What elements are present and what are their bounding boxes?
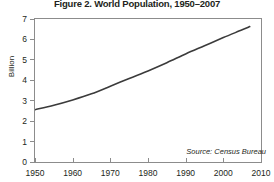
plot-inner bbox=[35, 19, 261, 162]
x-axis-tick-mark bbox=[73, 158, 74, 162]
y-axis-tick: 7 bbox=[0, 14, 34, 24]
x-axis-tick: 1970 bbox=[90, 163, 130, 178]
y-axis-tick-label: 4 bbox=[22, 75, 27, 85]
x-axis-tick-mark bbox=[35, 158, 36, 162]
x-axis-tick-label: 1960 bbox=[53, 163, 93, 178]
x-axis-tick-mark bbox=[148, 158, 149, 162]
x-axis-tick: 1980 bbox=[128, 163, 168, 178]
x-axis-tick-label: 2000 bbox=[203, 163, 243, 178]
y-axis-tick: 4 bbox=[0, 75, 34, 85]
y-axis-tick: 6 bbox=[0, 34, 34, 44]
y-axis-tick-label: 7 bbox=[22, 14, 27, 24]
source-note: Source: Census Bureau bbox=[186, 147, 266, 156]
y-axis-tick-label: 3 bbox=[22, 96, 27, 106]
chart-title: Figure 2. World Population, 1950–2007 bbox=[0, 0, 274, 10]
plot-area bbox=[34, 18, 262, 163]
x-axis-tick-label: 1990 bbox=[166, 163, 206, 178]
x-axis-tick-label: 1980 bbox=[128, 163, 168, 178]
x-axis-tick: 2010 bbox=[241, 163, 274, 178]
y-axis-tick: 2 bbox=[0, 116, 34, 126]
y-axis-tick-label: 6 bbox=[22, 34, 27, 44]
y-axis-tick: 3 bbox=[0, 96, 34, 106]
figure-container: Figure 2. World Population, 1950–2007 Bi… bbox=[0, 0, 274, 182]
population-line-series bbox=[35, 19, 261, 162]
y-axis-label: Billion bbox=[7, 37, 16, 97]
y-axis-tick: 5 bbox=[0, 55, 34, 65]
y-axis-tick-label: 2 bbox=[22, 116, 27, 126]
y-axis-tick-label: 1 bbox=[22, 137, 27, 147]
x-axis-tick-label: 2010 bbox=[241, 163, 274, 178]
x-axis-tick-mark bbox=[223, 158, 224, 162]
x-axis-tick-mark bbox=[261, 158, 262, 162]
x-axis-tick-label: 1950 bbox=[15, 163, 55, 178]
x-axis-tick-mark bbox=[186, 158, 187, 162]
population-line-path bbox=[35, 27, 250, 110]
x-axis-tick: 1990 bbox=[166, 163, 206, 178]
x-axis-tick: 1950 bbox=[15, 163, 55, 178]
x-axis-tick: 1960 bbox=[53, 163, 93, 178]
x-axis-tick-label: 1970 bbox=[90, 163, 130, 178]
x-axis-tick: 2000 bbox=[203, 163, 243, 178]
x-axis-tick-mark bbox=[110, 158, 111, 162]
y-axis-tick: 1 bbox=[0, 137, 34, 147]
y-axis-tick-label: 5 bbox=[22, 55, 27, 65]
